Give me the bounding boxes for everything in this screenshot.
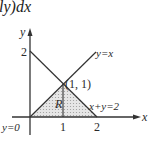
y-axis-label: y xyxy=(19,25,26,39)
label-y-equals-x: y=x xyxy=(95,47,113,59)
y-axis-arrow-icon xyxy=(28,28,33,36)
region-diagram: ly)dx y 2 x 1 2 y=0 y=x x+y=2 (1, 1) R xyxy=(0,0,151,146)
x-tick-1: 1 xyxy=(60,120,66,134)
label-y-equals-0: y=0 xyxy=(1,121,20,133)
label-x-plus-y-2: x+y=2 xyxy=(88,100,120,112)
y-tick-2: 2 xyxy=(21,45,27,59)
integral-fragment: ly)dx xyxy=(0,0,31,16)
intersection-point-label: (1, 1) xyxy=(65,77,91,91)
x-tick-2: 2 xyxy=(94,120,100,134)
region-label: R xyxy=(54,97,63,111)
x-axis-label: x xyxy=(141,110,148,124)
x-axis-arrow-icon xyxy=(133,115,141,120)
